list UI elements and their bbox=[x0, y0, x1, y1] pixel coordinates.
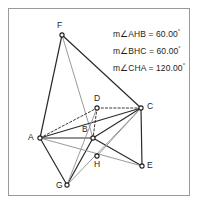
vertex-H[interactable] bbox=[95, 154, 99, 158]
vertex-D[interactable] bbox=[95, 106, 99, 110]
segment-CE bbox=[141, 108, 142, 166]
degree-symbol: ° bbox=[183, 62, 186, 68]
vertex-A[interactable] bbox=[38, 136, 42, 140]
vertex-E[interactable] bbox=[140, 164, 144, 168]
measurement-angle-CHA: m∠CHA = 120.00° bbox=[113, 62, 185, 73]
point-label-A: A bbox=[28, 132, 34, 142]
segments-layer bbox=[40, 35, 142, 185]
segment-FB bbox=[62, 35, 93, 138]
measurement-angle-BHC: m∠BHC = 60.00° bbox=[113, 45, 181, 56]
point-label-G: G bbox=[56, 180, 63, 190]
vertex-G[interactable] bbox=[65, 183, 69, 187]
measurement-text: m∠AHB = 60.00 bbox=[113, 29, 178, 39]
measurement-angle-AHB: m∠AHB = 60.00° bbox=[113, 28, 180, 39]
point-label-D: D bbox=[94, 93, 100, 103]
points-layer bbox=[38, 33, 144, 187]
vertex-B[interactable] bbox=[91, 136, 95, 140]
degree-symbol: ° bbox=[178, 45, 181, 51]
degree-symbol: ° bbox=[178, 28, 181, 34]
point-label-E: E bbox=[147, 160, 153, 170]
point-label-B: B bbox=[82, 124, 88, 134]
measurement-text: m∠BHC = 60.00 bbox=[113, 46, 178, 56]
segment-FA bbox=[40, 35, 62, 138]
vertex-C[interactable] bbox=[139, 106, 143, 110]
diagram-canvas: FDCABHEG m∠AHB = 60.00°m∠BHC = 60.00°m∠C… bbox=[0, 0, 204, 209]
point-label-C: C bbox=[147, 101, 153, 111]
vertex-F[interactable] bbox=[60, 33, 64, 37]
segment-AG bbox=[40, 138, 67, 185]
point-label-H: H bbox=[94, 159, 100, 169]
measurement-text: m∠CHA = 120.00 bbox=[113, 63, 183, 73]
point-label-F: F bbox=[57, 20, 62, 30]
segment-AC bbox=[40, 108, 141, 138]
